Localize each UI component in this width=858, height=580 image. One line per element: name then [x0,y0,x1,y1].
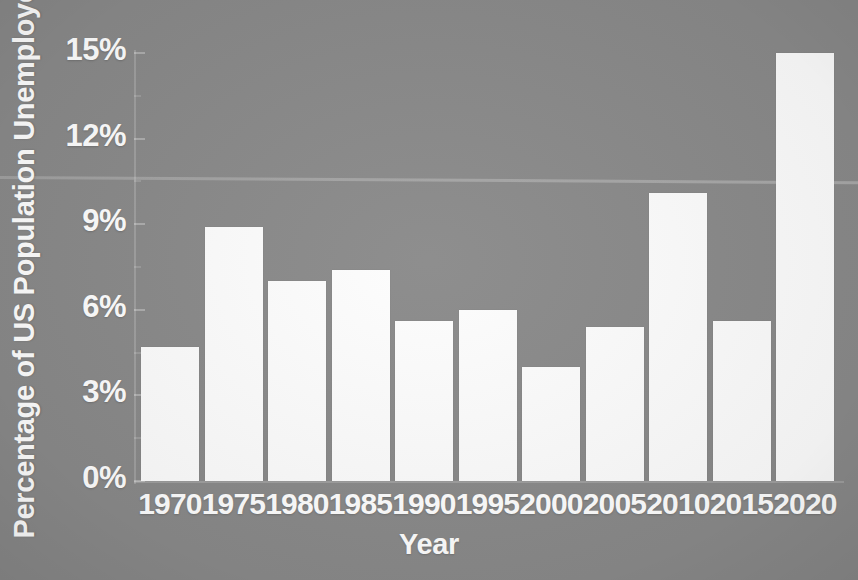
bar [649,193,707,481]
y-axis-tick [134,394,145,396]
bar [268,281,326,481]
y-axis-minor-tick [134,352,141,354]
y-axis-tick-label: 0% [82,460,126,496]
plot-area [136,53,842,481]
y-axis-tick-label: 6% [82,289,126,325]
x-axis-tick-label: 2020 [760,487,850,521]
bar [713,321,771,481]
bar [205,227,263,481]
bar [586,327,644,481]
x-axis-title: Year [0,528,858,561]
x-axis-line [134,481,844,483]
y-axis-tick [134,52,145,54]
y-axis-tick [134,223,145,225]
y-axis-tick-label: 3% [82,374,126,410]
y-axis-minor-tick [134,180,141,182]
bar [141,347,199,481]
y-axis-tick [134,309,145,311]
y-axis-minor-tick [134,95,141,97]
y-axis-tick-label: 9% [82,203,126,239]
bar [459,310,517,481]
y-axis-minor-tick [134,437,141,439]
y-axis-minor-tick [134,266,141,268]
bar [395,321,453,481]
y-axis-tick-label: 12% [65,118,126,154]
y-axis-tick [134,138,145,140]
bar [332,270,390,481]
bar [776,53,834,481]
chart-screenshot: 0%3%6%9%12%15% Year Percentage of US Pop… [0,0,858,580]
y-axis-title: Percentage of US Population Unemployed [8,19,41,539]
bar [522,367,580,481]
y-axis-tick-label: 15% [65,32,126,68]
y-axis-tick [134,480,145,482]
